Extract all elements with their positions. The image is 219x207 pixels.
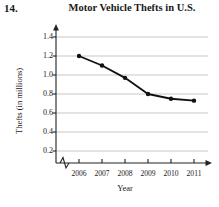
plot-area [0,0,219,207]
x-axis-arrowhead [206,160,213,166]
data-point [77,54,81,58]
data-point [100,63,104,67]
x-tick-marks [79,159,194,163]
figure-container: 14. Motor Vehicle Thefts in U.S. Thefts … [0,0,219,207]
data-series-markers [77,54,196,103]
data-point [146,92,150,96]
y-axis-arrowhead [53,24,59,31]
data-point [123,76,127,80]
data-point [169,97,173,101]
data-point [192,98,196,102]
